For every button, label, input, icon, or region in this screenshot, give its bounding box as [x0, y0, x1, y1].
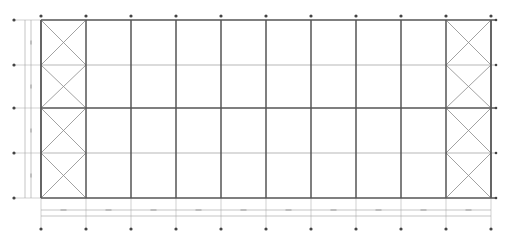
axis-bubble-bottom: [264, 227, 267, 230]
axis-bubble-bottom: [219, 227, 222, 230]
axis-bubble-bottom: [399, 227, 402, 230]
axis-bubble-right: [495, 197, 498, 200]
axis-bubble-bottom: [84, 227, 87, 230]
axis-bubble-top: [399, 14, 402, 17]
axis-bubble-left: [12, 18, 15, 21]
axis-bubble-top: [129, 14, 132, 17]
axis-bubble-top: [219, 14, 222, 17]
axis-bubble-top: [309, 14, 312, 17]
axis-bubble-right: [495, 152, 498, 155]
axis-bubble-right: [495, 19, 498, 22]
axis-bubble-bottom: [39, 227, 42, 230]
frame-columns: [41, 20, 491, 198]
axis-bubble-left: [12, 63, 15, 66]
axis-bubble-top: [489, 14, 492, 17]
axis-bubble-bottom: [444, 227, 447, 230]
axis-bubble-left: [12, 106, 15, 109]
secondary-beams: [41, 20, 495, 198]
axis-bubble-top: [39, 14, 42, 17]
axis-bubble-right: [495, 107, 498, 110]
axis-bubble-top: [444, 14, 447, 17]
axis-bubble-bottom: [309, 227, 312, 230]
axis-bubble-right: [495, 64, 498, 67]
axis-bubble-bottom: [129, 227, 132, 230]
axis-bubble-top: [174, 14, 177, 17]
axis-bubble-bottom: [489, 227, 492, 230]
axis-bubble-top: [354, 14, 357, 17]
axis-bubble-bottom: [174, 227, 177, 230]
axis-bubble-left: [12, 151, 15, 154]
axis-bubble-top: [84, 14, 87, 17]
axis-bubble-top: [264, 14, 267, 17]
axis-bubble-bottom: [354, 227, 357, 230]
axis-bubble-left: [12, 196, 15, 199]
structural-plan-drawing: [0, 0, 506, 241]
